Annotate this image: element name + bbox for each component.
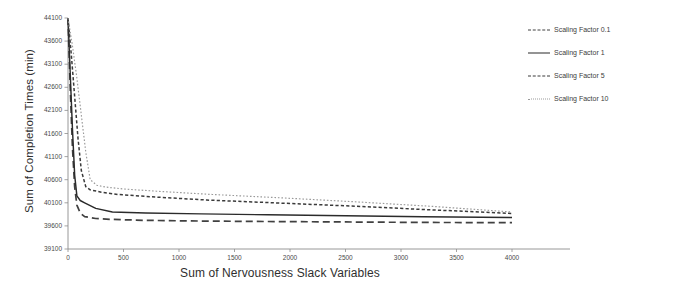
y-tick-label: 39600 <box>20 222 62 229</box>
x-tick-label: 1000 <box>159 254 199 261</box>
y-tick-label: 40600 <box>20 176 62 183</box>
y-tick-label: 39100 <box>20 245 62 252</box>
y-tick-label: 42100 <box>20 106 62 113</box>
legend-label: Scaling Factor 1 <box>554 49 605 56</box>
x-tick-label: 3500 <box>437 254 477 261</box>
x-tick-label: 2500 <box>326 254 366 261</box>
legend-item[interactable]: Scaling Factor 5 <box>528 64 678 87</box>
legend-line-swatch-scaling-factor-10 <box>528 95 550 103</box>
x-tick-label: 1500 <box>215 254 255 261</box>
y-tick-label: 43600 <box>20 37 62 44</box>
y-tick-label: 41100 <box>20 153 62 160</box>
y-tick-label: 43100 <box>20 60 62 67</box>
legend-item[interactable]: Scaling Factor 1 <box>528 41 678 64</box>
legend-label: Scaling Factor 5 <box>554 72 605 79</box>
series-line <box>68 18 512 223</box>
legend-item[interactable]: Scaling Factor 10 <box>528 87 678 110</box>
x-tick-label: 2000 <box>270 254 310 261</box>
chart-legend: Scaling Factor 0.1 Scaling Factor 1 Scal… <box>528 18 678 110</box>
series-line <box>68 18 512 213</box>
y-tick-label: 44100 <box>20 14 62 21</box>
legend-line-swatch-scaling-factor-0-1 <box>528 26 550 34</box>
legend-label: Scaling Factor 0.1 <box>554 26 610 33</box>
legend-line-swatch-scaling-factor-1 <box>528 49 550 57</box>
x-axis-title: Sum of Nervousness Slack Variables <box>0 266 560 280</box>
y-tick-label: 41600 <box>20 130 62 137</box>
legend-line-swatch-scaling-factor-5 <box>528 72 550 80</box>
legend-label: Scaling Factor 10 <box>554 95 608 102</box>
x-tick-label: 3000 <box>381 254 421 261</box>
series-line <box>68 18 512 212</box>
x-tick-label: 500 <box>104 254 144 261</box>
y-tick-label: 40100 <box>20 199 62 206</box>
x-tick-label: 4000 <box>492 254 532 261</box>
x-tick-label: 0 <box>48 254 88 261</box>
y-tick-label: 42600 <box>20 83 62 90</box>
chart-figure: Sum of Completion Times (min) Sum of Ner… <box>0 0 687 289</box>
legend-item[interactable]: Scaling Factor 0.1 <box>528 18 678 41</box>
series-line <box>68 18 512 218</box>
